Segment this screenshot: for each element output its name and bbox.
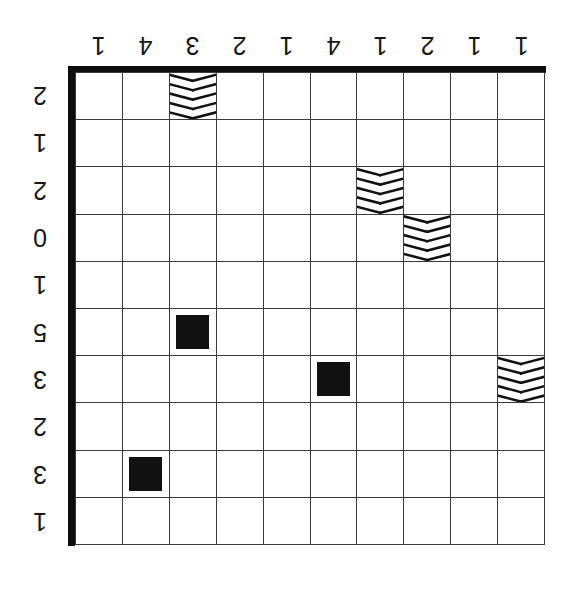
grid-cell[interactable] bbox=[357, 120, 404, 167]
grid-cell[interactable] bbox=[217, 167, 264, 214]
grid-cell-chevron[interactable] bbox=[498, 356, 545, 403]
grid-cell[interactable] bbox=[404, 356, 451, 403]
grid-cell[interactable] bbox=[76, 167, 123, 214]
grid-cell[interactable] bbox=[451, 403, 498, 450]
grid-cell[interactable] bbox=[357, 356, 404, 403]
grid-cell[interactable] bbox=[264, 167, 311, 214]
grid-cell[interactable] bbox=[404, 73, 451, 120]
grid-cell-chevron[interactable] bbox=[357, 167, 404, 214]
grid-cell[interactable] bbox=[311, 262, 358, 309]
grid-cell[interactable] bbox=[217, 403, 264, 450]
grid-cell[interactable] bbox=[123, 262, 170, 309]
grid-cell[interactable] bbox=[357, 73, 404, 120]
grid-cell[interactable] bbox=[451, 356, 498, 403]
grid-cell[interactable] bbox=[217, 498, 264, 545]
grid-cell[interactable] bbox=[76, 309, 123, 356]
grid-cell[interactable] bbox=[76, 120, 123, 167]
grid-cell[interactable] bbox=[123, 309, 170, 356]
grid-cell[interactable] bbox=[170, 498, 217, 545]
grid-cell[interactable] bbox=[404, 120, 451, 167]
grid-cell[interactable] bbox=[498, 120, 545, 167]
grid-cell[interactable] bbox=[264, 451, 311, 498]
grid-cell[interactable] bbox=[264, 215, 311, 262]
grid-cell[interactable] bbox=[357, 403, 404, 450]
grid-cell[interactable] bbox=[264, 356, 311, 403]
grid-cell[interactable] bbox=[76, 451, 123, 498]
grid-cell[interactable] bbox=[451, 309, 498, 356]
grid-cell[interactable] bbox=[311, 73, 358, 120]
grid-cell-chevron[interactable] bbox=[170, 73, 217, 120]
grid-cell[interactable] bbox=[404, 451, 451, 498]
grid-cell[interactable] bbox=[170, 451, 217, 498]
grid-cell[interactable] bbox=[217, 215, 264, 262]
grid-cell[interactable] bbox=[170, 120, 217, 167]
grid-cell[interactable] bbox=[76, 498, 123, 545]
grid-cell[interactable] bbox=[170, 403, 217, 450]
grid-cell[interactable] bbox=[311, 451, 358, 498]
grid-cell[interactable] bbox=[264, 309, 311, 356]
grid-cell[interactable] bbox=[217, 120, 264, 167]
grid-cell[interactable] bbox=[311, 498, 358, 545]
grid-cell[interactable] bbox=[451, 167, 498, 214]
grid-cell[interactable] bbox=[123, 73, 170, 120]
grid-cell[interactable] bbox=[76, 356, 123, 403]
grid-cell[interactable] bbox=[498, 451, 545, 498]
grid-cell[interactable] bbox=[357, 215, 404, 262]
grid-cell[interactable] bbox=[451, 120, 498, 167]
grid-cell[interactable] bbox=[451, 215, 498, 262]
grid-cell[interactable] bbox=[264, 120, 311, 167]
grid-cell[interactable] bbox=[404, 309, 451, 356]
grid-cell[interactable] bbox=[264, 262, 311, 309]
grid-cell[interactable] bbox=[498, 262, 545, 309]
grid-cell[interactable] bbox=[498, 167, 545, 214]
grid-cell[interactable] bbox=[170, 262, 217, 309]
grid-cell[interactable] bbox=[357, 309, 404, 356]
grid-cell[interactable] bbox=[170, 167, 217, 214]
grid-cell[interactable] bbox=[123, 403, 170, 450]
grid-cell[interactable] bbox=[76, 262, 123, 309]
grid-cell[interactable] bbox=[357, 262, 404, 309]
grid-cell[interactable] bbox=[311, 120, 358, 167]
grid-cell[interactable] bbox=[311, 215, 358, 262]
grid-cell-ship[interactable] bbox=[123, 451, 170, 498]
grid-cell[interactable] bbox=[170, 356, 217, 403]
grid-cell[interactable] bbox=[123, 498, 170, 545]
grid-cell[interactable] bbox=[357, 451, 404, 498]
grid-cell[interactable] bbox=[264, 498, 311, 545]
grid-cell[interactable] bbox=[451, 262, 498, 309]
grid-cell[interactable] bbox=[217, 451, 264, 498]
grid-cell[interactable] bbox=[498, 215, 545, 262]
puzzle-grid[interactable] bbox=[75, 72, 545, 545]
grid-cell[interactable] bbox=[498, 309, 545, 356]
grid-cell[interactable] bbox=[404, 167, 451, 214]
grid-cell[interactable] bbox=[76, 403, 123, 450]
grid-cell[interactable] bbox=[451, 451, 498, 498]
grid-cell[interactable] bbox=[123, 167, 170, 214]
grid-cell[interactable] bbox=[311, 309, 358, 356]
grid-cell[interactable] bbox=[76, 215, 123, 262]
grid-cell-ship[interactable] bbox=[170, 309, 217, 356]
grid-cell[interactable] bbox=[357, 498, 404, 545]
grid-cell[interactable] bbox=[311, 403, 358, 450]
grid-cell[interactable] bbox=[123, 120, 170, 167]
grid-cell[interactable] bbox=[404, 403, 451, 450]
grid-cell[interactable] bbox=[498, 498, 545, 545]
grid-cell[interactable] bbox=[311, 167, 358, 214]
grid-cell[interactable] bbox=[451, 498, 498, 545]
grid-cell[interactable] bbox=[170, 215, 217, 262]
grid-cell[interactable] bbox=[264, 73, 311, 120]
grid-cell[interactable] bbox=[217, 356, 264, 403]
grid-cell[interactable] bbox=[264, 403, 311, 450]
grid-cell[interactable] bbox=[404, 262, 451, 309]
grid-cell[interactable] bbox=[217, 262, 264, 309]
grid-cell[interactable] bbox=[123, 356, 170, 403]
grid-cell-chevron[interactable] bbox=[404, 215, 451, 262]
grid-cell[interactable] bbox=[217, 73, 264, 120]
grid-cell[interactable] bbox=[404, 498, 451, 545]
grid-cell[interactable] bbox=[217, 309, 264, 356]
grid-cell[interactable] bbox=[451, 73, 498, 120]
grid-cell[interactable] bbox=[123, 215, 170, 262]
grid-cell[interactable] bbox=[76, 73, 123, 120]
grid-cell[interactable] bbox=[498, 403, 545, 450]
grid-cell-ship[interactable] bbox=[311, 356, 358, 403]
